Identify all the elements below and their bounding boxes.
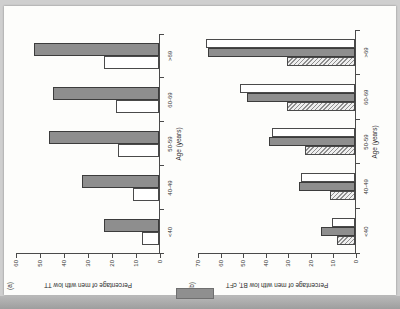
x-axis-a (159, 34, 160, 254)
bar-group (321, 218, 355, 245)
y-tick-label: 30 (85, 260, 91, 284)
y-tick (221, 254, 222, 258)
x-axis-b (355, 30, 356, 254)
x-tick-label: <40 (363, 215, 369, 249)
x-tick-label: 60-69 (363, 80, 369, 114)
bar (133, 188, 159, 201)
bar (272, 129, 356, 138)
x-axis-title-a: Age (years) (175, 34, 182, 254)
scanned-page: (a) Percentage of men with low TT Age (y… (0, 0, 400, 309)
x-tick (160, 209, 164, 210)
x-tick-label: <40 (167, 215, 173, 249)
y-tick (160, 254, 161, 258)
x-tick-label: 60-69 (167, 83, 173, 117)
y-axis-b (198, 253, 356, 254)
bar-group (269, 129, 355, 156)
y-tick-label: 60 (217, 260, 223, 284)
bar (34, 43, 159, 56)
bar (337, 236, 355, 245)
y-tick-label: 40 (262, 260, 268, 284)
spine-mark (176, 288, 214, 299)
bar (116, 100, 159, 113)
x-tick-label: 50-59 (363, 125, 369, 159)
bar-group (53, 87, 159, 113)
y-tick (198, 254, 199, 258)
y-tick-label: 20 (109, 260, 115, 284)
bar-group (82, 175, 159, 201)
x-axis-title-b: Age (years) (371, 30, 378, 254)
bar (53, 87, 159, 100)
x-tick (356, 208, 360, 209)
y-tick (88, 254, 89, 258)
bar (142, 232, 159, 245)
bar-group (49, 131, 159, 157)
chart-panel-a: (a) Percentage of men with low TT Age (y… (8, 30, 184, 288)
y-tick (288, 254, 289, 258)
y-tick-label: 30 (285, 260, 291, 284)
y-tick (40, 254, 41, 258)
y-tick (16, 254, 17, 258)
chart-panel-b: (b) Percentage of men with low BT, cFT A… (190, 26, 380, 288)
x-tick-label: 50-59 (167, 127, 173, 161)
bar (321, 227, 355, 236)
x-tick (160, 165, 164, 166)
bar-group (104, 219, 159, 245)
y-tick (243, 254, 244, 258)
x-tick-label: 40-49 (363, 170, 369, 204)
y-tick-label: 0 (353, 260, 359, 284)
y-tick (64, 254, 65, 258)
bar (49, 131, 159, 144)
x-tick (160, 253, 164, 254)
x-tick (356, 74, 360, 75)
y-tick-label: 70 (195, 260, 201, 284)
y-tick (311, 254, 312, 258)
x-tick (356, 30, 360, 31)
y-tick-label: 60 (13, 260, 19, 284)
x-tick (356, 253, 360, 254)
y-tick-label: 40 (61, 260, 67, 284)
x-tick (160, 77, 164, 78)
y-tick-label: 0 (157, 260, 163, 284)
y-tick (333, 254, 334, 258)
x-tick (160, 121, 164, 122)
bar (104, 56, 159, 69)
bar (287, 102, 355, 111)
x-tick-label: >69 (167, 39, 173, 73)
y-tick-label: 10 (330, 260, 336, 284)
x-tick (356, 163, 360, 164)
x-tick (356, 119, 360, 120)
y-tick (136, 254, 137, 258)
bar (330, 191, 355, 200)
bar (104, 219, 159, 232)
bar-group (34, 43, 159, 69)
y-tick-label: 20 (307, 260, 313, 284)
bar (301, 173, 355, 182)
bar (299, 182, 355, 191)
y-tick (356, 254, 357, 258)
x-tick-label: >69 (363, 35, 369, 69)
y-tick-label: 50 (37, 260, 43, 284)
bar (247, 93, 355, 102)
bar-group (206, 39, 355, 66)
bar (118, 144, 159, 157)
bar (82, 175, 159, 188)
bar (332, 218, 355, 227)
bar (287, 57, 355, 66)
y-tick-label: 50 (240, 260, 246, 284)
bar-group (299, 173, 355, 200)
y-tick-label: 10 (133, 260, 139, 284)
bar-group (240, 84, 355, 111)
bar (305, 147, 355, 156)
y-tick (112, 254, 113, 258)
bar (240, 84, 355, 93)
y-tick (266, 254, 267, 258)
x-tick (160, 34, 164, 35)
x-tick-label: 40-49 (167, 171, 173, 205)
bar (208, 48, 355, 57)
bar (269, 138, 355, 147)
bar (206, 39, 355, 48)
